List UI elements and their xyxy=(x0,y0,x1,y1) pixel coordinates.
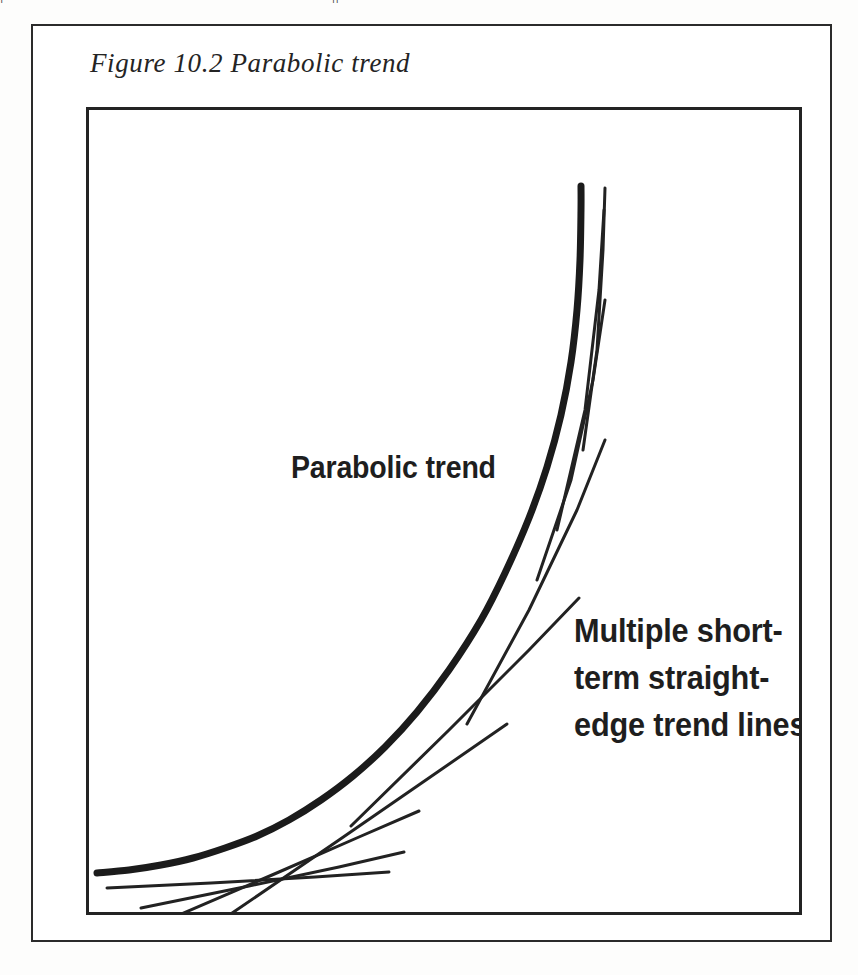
figure-caption: Figure 10.2 Parabolic trend xyxy=(90,48,410,79)
straight-edge-trend-line xyxy=(179,811,419,912)
trend-chart-svg xyxy=(89,110,799,912)
parabolic-trend-curve xyxy=(97,186,581,873)
plot-area: Parabolic trend Multiple short- term str… xyxy=(86,107,802,915)
scanned-page: | || Figure 10.2 Parabolic trend Parabol… xyxy=(0,0,858,975)
page-bleed-text: | || xyxy=(0,0,858,3)
multiple-short-term-label: Multiple short- term straight- edge tren… xyxy=(574,608,802,749)
chart-series-layer xyxy=(97,186,605,912)
straight-edge-trend-line xyxy=(351,598,579,826)
figure-frame: Figure 10.2 Parabolic trend Parabolic tr… xyxy=(31,24,832,942)
parabolic-trend-label: Parabolic trend xyxy=(291,452,496,483)
